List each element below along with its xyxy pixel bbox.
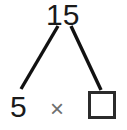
product-value: 15 <box>46 0 79 30</box>
right-branch-line <box>71 26 101 90</box>
left-branch-line <box>21 26 58 89</box>
multiplication-sign-icon: × <box>50 97 64 121</box>
factor-tree-diagram: 15 5 × <box>0 0 127 130</box>
missing-factor-answer-box[interactable] <box>88 91 116 119</box>
known-factor-value: 5 <box>10 92 27 122</box>
